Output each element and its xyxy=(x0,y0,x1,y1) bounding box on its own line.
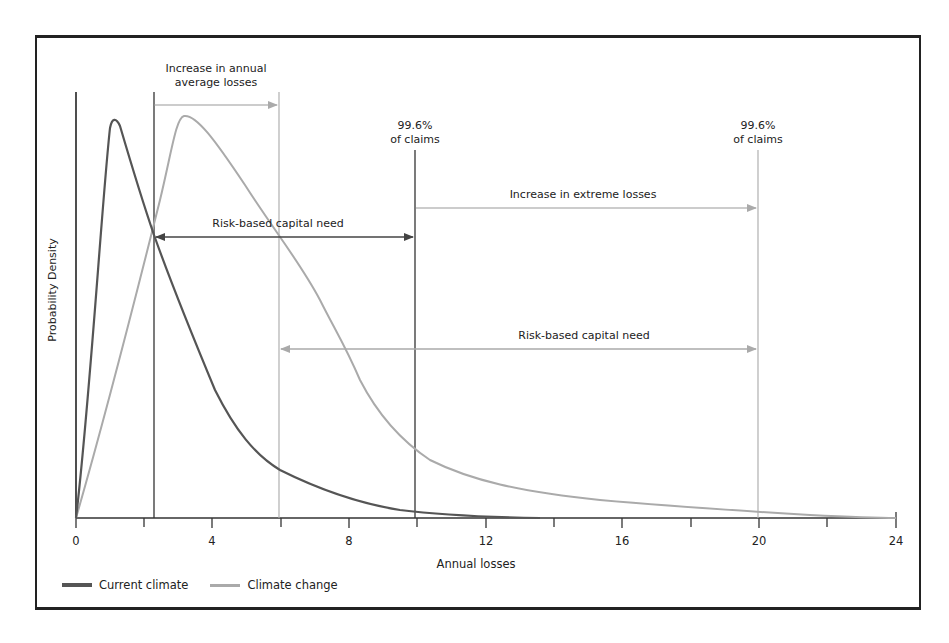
legend-swatch-dark xyxy=(62,583,92,587)
tick-label: 16 xyxy=(615,534,630,548)
claims-label-1-line1: 99.6% xyxy=(398,119,433,132)
claims-label-2-line1: 99.6% xyxy=(741,119,776,132)
annotation-avg-line1: Increase in annual xyxy=(165,62,266,75)
series-climate-change xyxy=(76,116,896,518)
annotation-capital-change: Risk-based capital need xyxy=(518,329,649,342)
tick-label: 20 xyxy=(752,534,767,548)
legend-label: Current climate xyxy=(99,578,188,592)
annotation-avg-line2: average losses xyxy=(175,76,258,89)
y-axis-label: Probability Density xyxy=(46,238,59,341)
legend-item-climate-change: Climate change xyxy=(210,578,337,592)
legend-swatch-light xyxy=(210,584,240,587)
tick-label: 12 xyxy=(479,534,494,548)
series-current-climate xyxy=(76,120,540,518)
legend-label: Climate change xyxy=(247,578,337,592)
annotation-extreme: Increase in extreme losses xyxy=(510,188,657,201)
chart-canvas: 0 4 8 12 16 20 24 Increase in annual ave… xyxy=(0,0,949,643)
annotation-capital-current: Risk-based capital need xyxy=(212,217,343,230)
tick-label: 24 xyxy=(889,534,904,548)
tick-label: 4 xyxy=(208,534,215,548)
tick-label: 0 xyxy=(72,534,79,548)
tick-label: 8 xyxy=(345,534,352,548)
legend: Current climate Climate change xyxy=(62,578,352,592)
x-axis-label: Annual losses xyxy=(437,557,516,571)
legend-item-current-climate: Current climate xyxy=(62,578,188,592)
claims-label-1-line2: of claims xyxy=(390,133,440,146)
x-axis-ticks xyxy=(76,512,896,528)
claims-label-2-line2: of claims xyxy=(733,133,783,146)
x-tick-labels: 0 4 8 12 16 20 24 xyxy=(72,534,903,548)
